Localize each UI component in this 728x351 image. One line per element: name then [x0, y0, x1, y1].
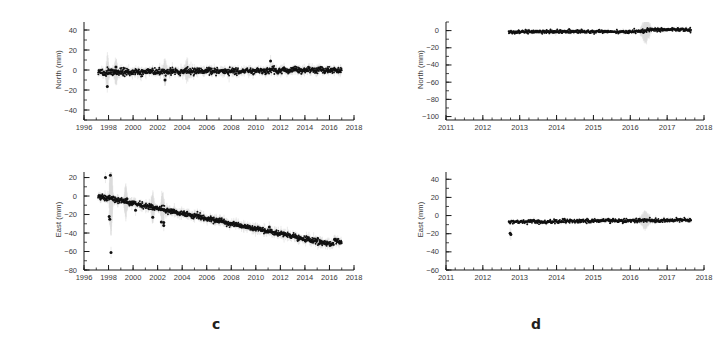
- xtick-label: 2017: [651, 123, 683, 132]
- xtick-label: 2012: [467, 123, 499, 132]
- error-bars: [509, 210, 691, 240]
- ytick-label: −100: [420, 112, 439, 121]
- xtick-label: 2018: [338, 273, 370, 282]
- y-axis-label: North (mm): [416, 44, 425, 96]
- xtick-label: 2016: [614, 273, 646, 282]
- data-points-c-north: [97, 52, 343, 92]
- markers: [508, 27, 692, 35]
- y-axis-label: North (mm): [54, 44, 63, 96]
- error-bars: [98, 172, 342, 258]
- ytick-label: −40: [58, 106, 77, 115]
- xtick-label: 2011: [430, 123, 462, 132]
- data-points-d-east: [508, 210, 692, 240]
- ytick-label: 20: [58, 173, 77, 182]
- panel-letter-d: d: [531, 316, 541, 332]
- ytick-label: 40: [420, 175, 439, 184]
- panel-letter-c: c: [212, 316, 220, 332]
- subplot-c-north: 40200−20−4019961998200020022004200620082…: [58, 18, 358, 136]
- markers: [97, 174, 343, 254]
- plot-canvas-c-north: [58, 18, 358, 136]
- y-axis-label: East (mm): [416, 194, 425, 246]
- plot-canvas-d-east: [420, 168, 708, 286]
- xtick-label: 2013: [504, 123, 536, 132]
- ytick-label: −40: [420, 247, 439, 256]
- xtick-label: 2015: [577, 273, 609, 282]
- ytick-label: 40: [58, 26, 77, 35]
- xtick-label: 2014: [541, 123, 573, 132]
- plot-canvas-c-east: [58, 168, 358, 286]
- xtick-label: 2017: [651, 273, 683, 282]
- ytick-label: −60: [58, 247, 77, 256]
- subplot-d-east: 40200−20−40−6020112012201320142015201620…: [420, 168, 708, 286]
- xtick-label: 2018: [688, 123, 720, 132]
- xtick-label: 2018: [688, 273, 720, 282]
- xtick-label: 2014: [541, 273, 573, 282]
- xtick-label: 2016: [614, 123, 646, 132]
- xtick-label: 2013: [504, 273, 536, 282]
- data-points-c-east: [97, 172, 343, 258]
- subplot-d-north: 0−20−40−60−80−10020112012201320142015201…: [420, 18, 708, 136]
- xtick-label: 2012: [467, 273, 499, 282]
- error-bars: [509, 22, 691, 44]
- subplot-c-east: 200−20−40−60−801996199820002002200420062…: [58, 168, 358, 286]
- xtick-label: 2011: [430, 273, 462, 282]
- markers: [97, 60, 343, 89]
- ytick-label: −80: [420, 95, 439, 104]
- xtick-label: 2015: [577, 123, 609, 132]
- xtick-label: 2018: [338, 123, 370, 132]
- gps-timeseries-figure: 40200−20−4019961998200020022004200620082…: [0, 0, 728, 351]
- y-axis-label: East (mm): [54, 194, 63, 246]
- plot-canvas-d-north: [420, 18, 708, 136]
- data-points-d-north: [508, 22, 692, 44]
- ytick-label: 0: [420, 26, 439, 35]
